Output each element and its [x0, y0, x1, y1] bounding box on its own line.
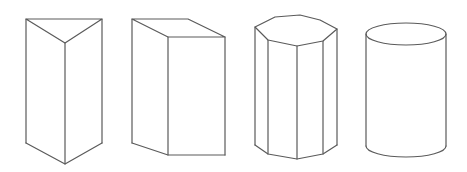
triangular-prism: [26, 19, 102, 164]
top-face: [255, 15, 337, 46]
top-face: [26, 19, 102, 43]
cylinder: [366, 23, 446, 157]
rectangular-prism: [132, 19, 225, 155]
bottom-edge: [132, 143, 225, 155]
bottom-edge: [26, 143, 102, 164]
top-face: [132, 19, 225, 37]
bottom-edge: [255, 145, 337, 159]
top-ellipse: [366, 23, 446, 45]
bottom-arc: [366, 146, 446, 157]
solids-diagram: [0, 0, 467, 172]
diagram-canvas: [0, 0, 467, 172]
octagonal-prism: [255, 15, 337, 159]
